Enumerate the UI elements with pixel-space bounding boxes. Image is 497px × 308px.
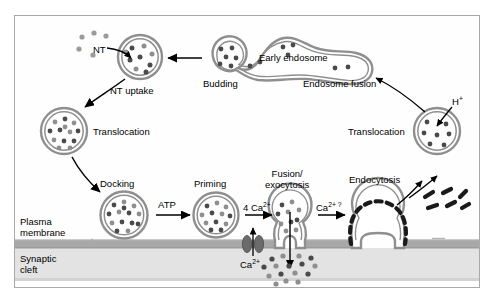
figure-canvas: NT NT uptake Translocation Budding Early…	[0, 0, 497, 308]
vesicle-nt-uptake	[118, 35, 162, 79]
arrow-clathrin-shed	[409, 176, 437, 198]
label-synaptic-cleft: Synapticcleft	[20, 253, 56, 275]
label-endocytosis: Endocytosis	[349, 174, 400, 185]
label-four-calcium: 4 Ca2+	[243, 199, 271, 213]
vesicle-priming	[194, 193, 239, 238]
label-budding: Budding	[203, 78, 238, 89]
clathrin-rods	[425, 189, 469, 208]
label-endosome-fusion: Endosome fusion	[303, 78, 376, 89]
label-atp: ATP	[158, 199, 176, 210]
label-plasma-membrane: Plasmamembrane	[20, 216, 65, 238]
label-nt-uptake: NT uptake	[110, 85, 154, 96]
arrow-translocation-to-docking	[72, 157, 100, 192]
label-fusion-exocytosis: Fusion/exocytosis	[265, 168, 309, 190]
label-calcium-channel: Ca2+	[240, 256, 260, 270]
arrow-translocation-to-endosome	[376, 78, 425, 112]
label-translocation-right: Translocation	[348, 126, 405, 137]
vesicle-docking	[101, 192, 148, 239]
label-early-endosome: Early endosome	[259, 52, 328, 63]
label-calcium-question: Ca2+ ?	[316, 199, 342, 213]
calcium-channel	[242, 228, 263, 256]
label-hplus: H+	[452, 93, 463, 107]
label-priming: Priming	[194, 178, 226, 189]
label-nt: NT	[93, 44, 106, 55]
vesicle-translocation-right	[414, 108, 460, 154]
vesicle-translocation-left	[41, 108, 87, 154]
label-docking: Docking	[100, 178, 134, 189]
endocytosis-pit	[350, 178, 406, 248]
cleft-lower-edge	[15, 278, 479, 281]
label-translocation-left: Translocation	[93, 126, 150, 137]
